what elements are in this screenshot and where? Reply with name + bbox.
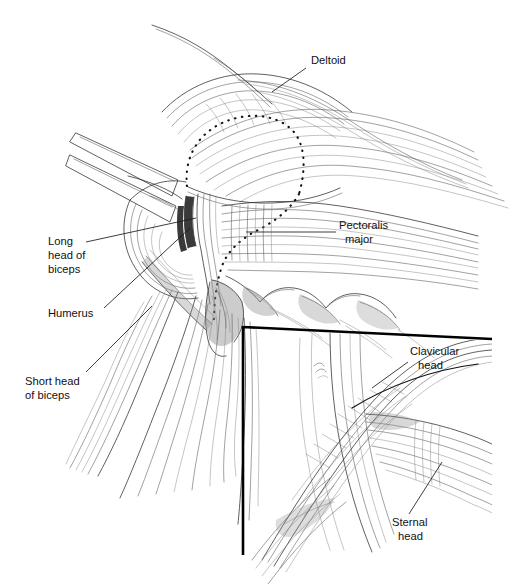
label-short-head-of-biceps-line1: Short head: [25, 375, 80, 387]
figure-background: [0, 0, 526, 584]
label-sternal-head-line2: head: [398, 530, 423, 542]
label-clavicular-head-line2: head: [418, 359, 443, 371]
label-pectoralis-major-line2: major: [345, 233, 373, 245]
illustration-canvas: Deltoid Pectoralis major Long head of bi…: [0, 0, 526, 584]
label-long-head-of-biceps-line2: head of: [48, 249, 86, 261]
label-pectoralis-major-line1: Pectoralis: [339, 219, 389, 231]
label-clavicular-head-line1: Clavicular: [410, 345, 459, 357]
label-long-head-of-biceps-line1: Long: [48, 235, 73, 247]
anatomical-figure: Deltoid Pectoralis major Long head of bi…: [0, 0, 526, 584]
label-deltoid: Deltoid: [311, 54, 346, 66]
label-short-head-of-biceps-line2: of biceps: [25, 389, 70, 401]
label-sternal-head-line1: Sternal: [392, 516, 427, 528]
label-long-head-of-biceps-line3: biceps: [48, 263, 81, 275]
label-humerus: Humerus: [48, 307, 94, 319]
